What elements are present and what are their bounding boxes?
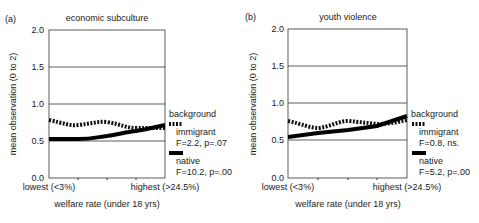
chart-a-svg: (a) economic subculture mean observation… bbox=[0, 0, 240, 223]
chart-title: economic subculture bbox=[66, 13, 149, 23]
legend: background immigrant F=0.8, ns. native F… bbox=[411, 109, 470, 177]
legend: background immigrant F=2.2, p=.07 native… bbox=[169, 109, 232, 177]
y-tick-labels: 0.0 0.5 1.0 1.5 2.0 bbox=[31, 25, 44, 183]
legend-stat-native: F=5.2, p=.00 bbox=[419, 167, 470, 177]
chart-b-svg: (b) youth violence mean observation (0 t… bbox=[240, 0, 479, 223]
svg-text:2.0: 2.0 bbox=[271, 24, 284, 34]
x-tick-label-highest: highest (>24.5%) bbox=[131, 182, 199, 192]
y-axis-label: mean observation (0 to 2) bbox=[8, 53, 18, 156]
legend-label-native: native bbox=[419, 156, 443, 166]
svg-text:1.5: 1.5 bbox=[31, 62, 44, 72]
chart-panel-a: (a) economic subculture mean observation… bbox=[0, 0, 240, 223]
x-tick-label-lowest: lowest (<3%) bbox=[262, 182, 314, 192]
svg-text:0.5: 0.5 bbox=[31, 136, 44, 146]
legend-stat-native: F=10.2, p=.00 bbox=[176, 167, 232, 177]
plot-area bbox=[49, 30, 165, 180]
legend-label-immigrant: immigrant bbox=[419, 127, 459, 137]
legend-title: background bbox=[411, 109, 458, 119]
y-tick-labels: 0.0 0.5 1.0 1.5 2.0 bbox=[271, 24, 284, 183]
legend-title: background bbox=[169, 109, 216, 119]
chart-panel-b: (b) youth violence mean observation (0 t… bbox=[240, 0, 479, 223]
x-axis-label: welfare rate (under 18 yrs) bbox=[294, 199, 401, 209]
svg-text:1.0: 1.0 bbox=[271, 98, 284, 108]
x-tick-label-highest: highest (>24.5%) bbox=[373, 182, 441, 192]
panel-label: (b) bbox=[245, 12, 256, 22]
panel-label: (a) bbox=[5, 14, 16, 24]
plot-area bbox=[288, 29, 407, 180]
legend-label-native: native bbox=[176, 156, 200, 166]
svg-text:1.5: 1.5 bbox=[271, 61, 284, 71]
y-axis-label: mean observation (0 to 2) bbox=[248, 53, 258, 156]
svg-text:0.5: 0.5 bbox=[271, 135, 284, 145]
chart-title: youth violence bbox=[319, 12, 377, 22]
legend-stat-immigrant: F=0.8, ns. bbox=[419, 138, 459, 148]
svg-text:1.0: 1.0 bbox=[31, 99, 44, 109]
x-axis-label: welfare rate (under 18 yrs) bbox=[53, 199, 160, 209]
legend-label-immigrant: immigrant bbox=[176, 127, 216, 137]
legend-stat-immigrant: F=2.2, p=.07 bbox=[176, 138, 227, 148]
x-tick-label-lowest: lowest (<3%) bbox=[23, 182, 75, 192]
series-native-line bbox=[49, 125, 165, 139]
svg-text:2.0: 2.0 bbox=[31, 25, 44, 35]
